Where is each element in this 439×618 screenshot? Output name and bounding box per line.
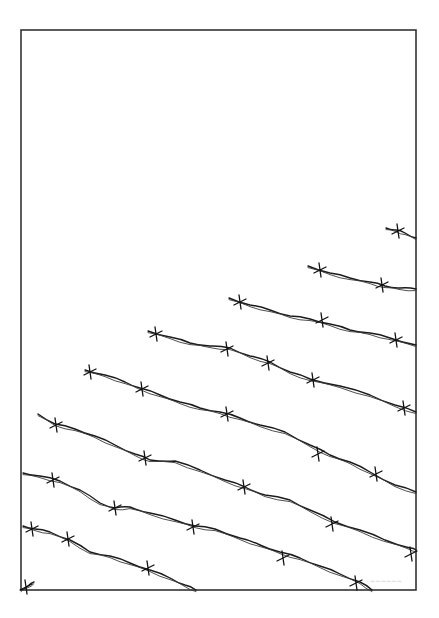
barb-icon <box>316 313 328 327</box>
wire-twist <box>23 528 196 592</box>
wire-twist <box>85 370 416 492</box>
wire-strand <box>20 580 34 594</box>
barbed-wire-strands <box>20 224 417 594</box>
wire-twist <box>23 473 372 590</box>
barb-icon <box>234 295 246 309</box>
wire-strand <box>386 224 416 240</box>
barbed-wire-illustration: ~~~~~~ <box>0 0 439 618</box>
barb-icon <box>139 451 151 465</box>
artist-signature: ~~~~~~ <box>370 577 402 584</box>
wire-strand <box>308 263 416 292</box>
wire-twist <box>148 333 416 414</box>
wire-twist <box>85 372 416 494</box>
wire-strand <box>23 522 196 592</box>
wire-strand <box>38 414 417 561</box>
wire-twist <box>308 266 416 289</box>
wire-strand <box>148 327 416 415</box>
barb-icon <box>350 576 362 590</box>
barb-icon <box>187 520 199 534</box>
barb-icon <box>376 278 388 292</box>
wire-twist <box>23 526 196 590</box>
wire-strand <box>84 365 416 494</box>
wire-strand <box>23 473 372 592</box>
barb-icon <box>398 401 410 415</box>
barb-icon <box>314 263 326 277</box>
wire-strand <box>229 295 416 347</box>
barb-icon <box>150 327 162 341</box>
wire-twist <box>38 414 416 550</box>
wire-twist <box>23 475 372 592</box>
wire-twist <box>148 331 416 412</box>
picture-frame <box>21 30 416 590</box>
